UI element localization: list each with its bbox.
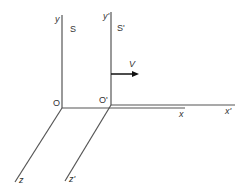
label-velocity: V	[129, 60, 135, 69]
label-x: x	[179, 110, 184, 119]
label-frame-s-prime: S'	[117, 24, 125, 33]
label-y: y	[55, 15, 60, 24]
label-origin-s-prime: O'	[99, 96, 108, 105]
label-z: z	[19, 176, 24, 185]
z-axis-s	[15, 108, 62, 182]
label-origin-s: O	[53, 99, 60, 108]
velocity-arrow-icon	[111, 71, 139, 77]
label-z-prime: z'	[69, 175, 75, 184]
label-frame-s: S	[70, 25, 76, 34]
label-y-prime: y'	[103, 12, 109, 21]
z-axis-s-prime	[65, 105, 111, 181]
label-x-prime: x'	[225, 107, 231, 116]
